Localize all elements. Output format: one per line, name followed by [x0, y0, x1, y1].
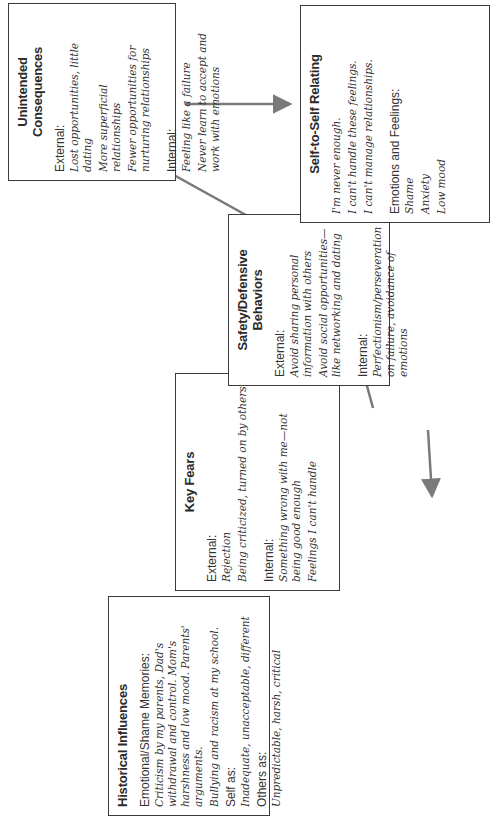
section-label: Emotions and Feelings:	[388, 14, 402, 214]
list-item: Inadequate, unacceptable, different	[239, 605, 252, 807]
list-item: Rejection	[220, 382, 233, 582]
section-label: External:	[205, 382, 219, 582]
list-item: Shame	[403, 14, 416, 214]
list-item: Never learn to accept and work with emot…	[196, 12, 222, 172]
list-item: Anxiety	[419, 14, 432, 214]
section-label: Others as:	[255, 605, 269, 807]
list-item: Feelings I can't handle	[306, 382, 319, 582]
list-item: More superficial relationships	[97, 12, 123, 172]
list-item: Feeling like a failure	[180, 12, 193, 172]
statement: I can't handle these feelings.	[346, 14, 359, 214]
section-label: External:	[273, 223, 287, 377]
historical-influences-title: Historical Influences	[115, 605, 130, 807]
list-item: Being criticized, turned on by others	[236, 382, 249, 582]
statement: I'm never enough.	[330, 14, 343, 214]
list-item: Avoid sharing personal information with …	[288, 223, 314, 377]
statement: I can't manage relationships.	[362, 14, 375, 214]
list-item: Avoid social opportunities—like networki…	[317, 223, 343, 377]
key-fears-box: Key Fears External: Rejection Being crit…	[175, 373, 340, 591]
list-item: Criticism by my parents, Dad's withdrawa…	[153, 605, 205, 807]
unintended-consequences-title: Unintended Consequences	[15, 12, 45, 172]
list-item: Bullying and racism at my school.	[208, 605, 221, 807]
section-label: Internal:	[262, 382, 276, 582]
list-item: Unpredictable, harsh, critical	[270, 605, 283, 807]
list-item: Something wrong with me—not being good e…	[277, 382, 303, 582]
arrow-self-to-fears	[428, 430, 432, 496]
list-item: Fewer opportunities for nurturing relati…	[126, 12, 152, 172]
self-to-self-relating-title: Self-to-Self Relating	[307, 14, 322, 214]
self-to-self-relating-box: Self-to-Self Relating I'm never enough. …	[300, 5, 490, 223]
unintended-consequences-box: Unintended Consequences External: Lost o…	[8, 3, 176, 181]
list-item: Low mood	[435, 14, 448, 214]
section-label: External:	[53, 12, 67, 172]
safety-behaviors-box: Safety/Defensive Behaviors External: Avo…	[228, 214, 390, 386]
section-label: Emotional/Shame Memories:	[138, 605, 152, 807]
section-label: Internal:	[356, 223, 370, 377]
safety-behaviors-title: Safety/Defensive Behaviors	[235, 223, 265, 377]
diagram-canvas: Historical Influences Emotional/Shame Me…	[0, 0, 498, 826]
list-item: Perfectionism/perseveration on failure, …	[371, 223, 410, 377]
historical-influences-box: Historical Influences Emotional/Shame Me…	[108, 596, 270, 816]
section-label: Internal:	[165, 12, 179, 172]
list-item: Lost opportunities, little dating	[68, 12, 94, 172]
key-fears-title: Key Fears	[182, 382, 197, 582]
section-label: Self as:	[224, 605, 238, 807]
